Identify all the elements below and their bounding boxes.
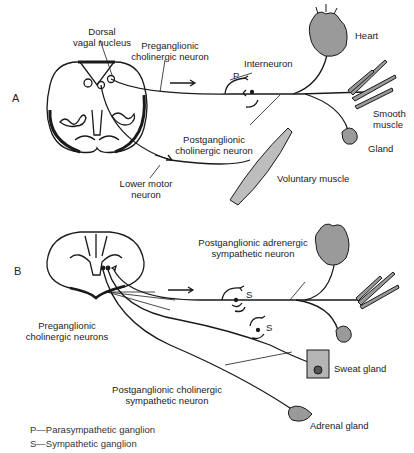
label-line: neuron: [116, 189, 176, 200]
label-line: Preganglionic: [128, 40, 212, 51]
label-preganglionic-b: Preganglionic cholinergic neurons: [24, 320, 110, 342]
label-post-cholinergic: Postganglionic cholinergic sympathetic n…: [108, 384, 226, 406]
label-post-adrenergic: Postganglionic adrenergic sympathetic ne…: [196, 237, 310, 259]
legend-s: S—Sympathetic ganglion: [30, 438, 137, 449]
label-line: sympathetic neuron: [196, 248, 310, 259]
label-line: Dorsal: [62, 26, 142, 37]
label-line: muscle: [373, 119, 406, 130]
label-voluntary-muscle: Voluntary muscle: [277, 173, 349, 184]
label-line: Lower motor: [116, 178, 176, 189]
label-ganglion-s1: S: [246, 289, 252, 300]
label-lower-motor-neuron: Lower motor neuron: [116, 178, 176, 200]
label-interneuron: Interneuron: [244, 58, 293, 69]
spinal-cord-a: [47, 62, 147, 153]
label-heart: Heart: [355, 30, 378, 41]
label-sweat-gland: Sweat gland: [334, 363, 386, 374]
label-line: cholinergic neuron: [128, 51, 212, 62]
label-smooth-muscle: Smooth muscle: [373, 108, 406, 130]
label-preganglionic-a: Preganglionic cholinergic neuron: [128, 40, 212, 62]
label-postganglionic-a: Postganglionic cholinergic neuron: [166, 134, 262, 156]
panel-label-a: A: [12, 92, 19, 104]
label-line: Smooth: [373, 108, 406, 119]
label-line: cholinergic neurons: [24, 331, 110, 342]
label-ganglion-p: P: [233, 70, 239, 81]
panel-label-b: B: [14, 265, 21, 277]
heart-a: [309, 12, 347, 56]
label-line: Preganglionic: [24, 320, 110, 331]
spinal-cord-b: [47, 232, 144, 298]
label-line: Postganglionic adrenergic: [196, 237, 310, 248]
label-line: cholinergic neuron: [166, 145, 262, 156]
legend-p: P—Parasympathetic ganglion: [30, 424, 155, 435]
label-line: sympathetic neuron: [108, 395, 226, 406]
heart-b: [315, 224, 349, 265]
label-gland-a: Gland: [368, 143, 393, 154]
label-adrenal-gland: Adrenal gland: [310, 420, 369, 431]
label-ganglion-s2: S: [266, 322, 272, 333]
label-line: Postganglionic cholinergic: [108, 384, 226, 395]
label-line: Postganglionic: [166, 134, 262, 145]
